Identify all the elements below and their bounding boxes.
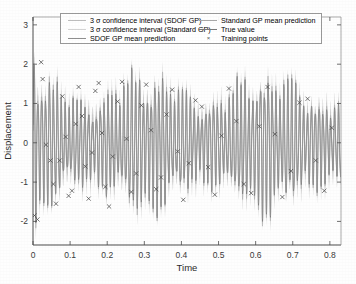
training-point-marker <box>70 189 74 193</box>
legend-line-swatch-icon <box>67 25 87 34</box>
training-point-marker <box>164 112 168 116</box>
y-tick-label: 1 <box>23 98 28 108</box>
training-point-marker <box>93 89 97 93</box>
training-point-marker <box>48 158 52 162</box>
legend-item[interactable]: SDOF GP mean prediction <box>67 34 211 43</box>
legend-item-label: 3 σ confidence interval (SDOF GP) <box>90 16 202 25</box>
legend-item[interactable]: ×Training points <box>198 34 316 43</box>
legend-item-label: Standard GP mean prediction <box>221 16 316 25</box>
chart-legend: 3 σ confidence interval (SDOF GP)3 σ con… <box>60 13 322 44</box>
sdof-gp-mean-line <box>33 66 341 220</box>
training-point-marker <box>77 85 81 89</box>
legend-item[interactable]: True value <box>198 25 316 34</box>
training-point-marker <box>249 191 253 195</box>
training-point-marker <box>280 195 284 199</box>
legend-x-marker-icon: × <box>198 34 218 43</box>
training-point-marker <box>54 202 58 206</box>
x-tick-label: 0.7 <box>287 250 299 260</box>
legend-line-swatch-icon <box>198 25 218 34</box>
training-point-marker <box>149 128 153 132</box>
legend-item-label: SDOF GP mean prediction <box>90 34 175 43</box>
legend-item[interactable]: 3 σ confidence interval (Standard GP) <box>67 25 211 34</box>
training-point-marker <box>41 77 45 81</box>
y-tick-label: 3 <box>23 20 28 30</box>
training-point-marker <box>107 204 111 208</box>
training-point-marker <box>219 134 223 138</box>
y-tick-label: -1 <box>20 177 28 187</box>
x-tick-label: 0.2 <box>101 250 113 260</box>
x-tick-label: 0 <box>31 250 36 260</box>
legend-column-right: Standard GP mean predictionTrue value×Tr… <box>198 16 316 43</box>
x-axis-title: Time <box>177 262 198 273</box>
training-point-marker <box>67 194 71 198</box>
y-axis-title: Displacement <box>2 102 13 160</box>
figure-canvas: 00.10.20.30.40.50.60.70.83210-1-2 Time D… <box>0 0 356 284</box>
legend-column-left: 3 σ confidence interval (SDOF GP)3 σ con… <box>67 16 211 43</box>
training-point-marker <box>97 81 101 85</box>
training-point-marker <box>87 197 91 201</box>
legend-item-label: 3 σ confidence interval (Standard GP) <box>90 25 211 34</box>
x-tick-label: 0.8 <box>324 250 336 260</box>
training-point-marker <box>181 198 185 202</box>
legend-item[interactable]: Standard GP mean prediction <box>198 16 316 25</box>
x-tick-label: 0.4 <box>176 250 188 260</box>
legend-line-swatch-icon <box>198 16 218 25</box>
training-point-marker <box>144 83 148 87</box>
training-point-marker <box>74 122 78 126</box>
training-point-marker <box>90 151 94 155</box>
y-tick-label: 2 <box>23 59 28 69</box>
training-point-marker <box>213 193 217 197</box>
x-tick-label: 0.3 <box>138 250 150 260</box>
legend-item-label: Training points <box>221 34 268 43</box>
legend-item[interactable]: 3 σ confidence interval (SDOF GP) <box>67 16 211 25</box>
y-tick-label: 0 <box>23 138 28 148</box>
training-point-marker <box>322 189 326 193</box>
legend-line-swatch-icon <box>67 16 87 25</box>
training-point-marker <box>39 60 43 64</box>
training-point-marker <box>159 175 163 179</box>
x-tick-label: 0.5 <box>213 250 225 260</box>
training-point-marker <box>124 137 128 141</box>
x-tick-label: 0.1 <box>64 250 76 260</box>
y-tick-label: -2 <box>20 216 28 226</box>
training-point-marker <box>314 158 318 162</box>
x-tick-label: 0.6 <box>250 250 262 260</box>
training-point-marker <box>58 158 62 162</box>
legend-item-label: True value <box>221 25 255 34</box>
legend-line-swatch-icon <box>67 34 87 43</box>
